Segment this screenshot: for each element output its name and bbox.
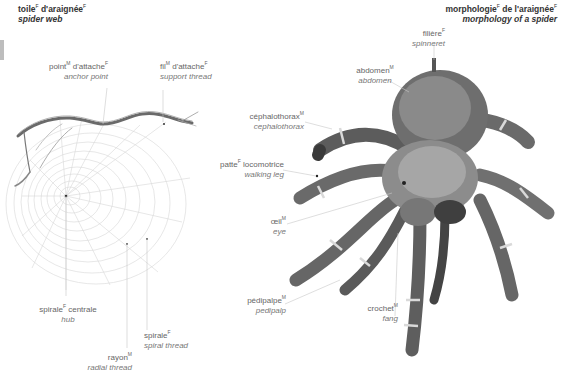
gender-mark: M	[282, 294, 286, 300]
label-en: hub	[28, 315, 108, 325]
gender-mark: M	[390, 64, 394, 70]
gender-mark: F	[63, 303, 66, 309]
gender-mark: M	[128, 351, 132, 357]
gender-mark: F	[105, 60, 108, 66]
gender-mark: F	[168, 329, 171, 335]
gender-mark: F	[204, 60, 207, 66]
label-fr: pédipalpe	[247, 296, 282, 305]
label-fr: spirale	[144, 331, 168, 340]
label-en: radial thread	[88, 363, 132, 373]
spider-drawing	[296, 58, 548, 350]
label-fr: point	[49, 62, 66, 71]
label-fr: céphalothorax	[250, 112, 300, 121]
label-en: cephalothorax	[250, 122, 304, 132]
label-abdomen: abdomenM abdomen	[345, 66, 405, 86]
label-fr: abdomen	[356, 66, 389, 75]
label-walking-leg: patteF locomotrice walking leg	[220, 160, 284, 180]
label-fr-rest: d'attache	[172, 62, 204, 71]
label-anchor-point: pointM d'attacheF anchor point	[49, 62, 108, 82]
label-en: walking leg	[220, 170, 284, 180]
gender-mark: F	[442, 27, 445, 33]
gender-mark: M	[394, 302, 398, 308]
label-support-thread: filM d'attacheF support thread	[160, 62, 212, 82]
label-fr: rayon	[108, 353, 128, 362]
label-en: pedipalp	[247, 306, 286, 316]
label-en: support thread	[160, 72, 212, 82]
gender-mark: M	[166, 60, 170, 66]
gender-mark: M	[66, 60, 70, 66]
label-fr-rest: centrale	[68, 305, 96, 314]
gender-mark: F	[238, 158, 241, 164]
label-spiral-thread: spiraleF spiral thread	[144, 331, 188, 351]
label-fr: spirale	[39, 305, 63, 314]
gender-mark: M	[282, 215, 286, 221]
label-fang: crochetM fang	[368, 304, 398, 324]
label-en: spiral thread	[144, 341, 188, 351]
gender-mark: M	[300, 110, 304, 116]
label-fr-rest: locomotrice	[243, 160, 284, 169]
label-fr: filière	[423, 29, 442, 38]
label-fr: patte	[220, 160, 238, 169]
label-spinneret: filièreF spinneret	[412, 29, 445, 49]
label-fr: œil	[271, 217, 282, 226]
label-en: fang	[368, 314, 398, 324]
label-en: anchor point	[49, 72, 108, 82]
label-hub: spiraleF centrale hub	[28, 305, 108, 325]
label-en: eye	[271, 227, 286, 237]
label-en: spinneret	[412, 39, 445, 49]
label-radial-thread: rayonM radial thread	[88, 353, 132, 373]
label-pedipalp: pédipalpeM pedipalp	[247, 296, 286, 316]
label-eye: œilM eye	[271, 217, 286, 237]
label-fr-rest: d'attache	[73, 62, 105, 71]
label-en: abdomen	[345, 76, 405, 86]
spider-web-drawing	[6, 118, 190, 290]
label-fr: crochet	[368, 304, 394, 313]
label-cephalothorax: céphalothoraxM cephalothorax	[250, 112, 304, 132]
